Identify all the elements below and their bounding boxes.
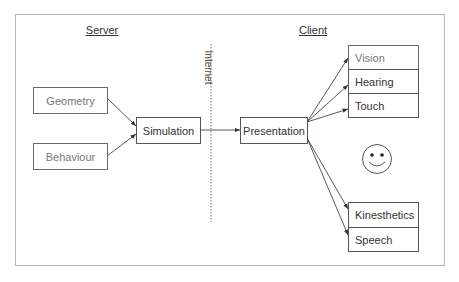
node-speech: Speech [348, 227, 419, 252]
edge-presentation-touch [307, 109, 348, 122]
edge-geometry-simulation [107, 98, 136, 126]
node-vision: Vision [348, 45, 419, 70]
node-presentation: Presentation [240, 117, 308, 144]
node-touch: Touch [348, 93, 419, 118]
architecture-diagram: Server Client Internet Geometry Behaviou… [0, 0, 459, 282]
node-behaviour: Behaviour [33, 143, 108, 170]
node-simulation: Simulation [136, 117, 201, 144]
node-kinesthetics: Kinesthetics [348, 202, 419, 228]
smiley-face-icon [363, 145, 392, 174]
node-hearing: Hearing [348, 69, 419, 94]
edge-behaviour-simulation [107, 134, 136, 156]
node-geometry: Geometry [33, 87, 108, 114]
edge-presentation-kinesthetics [307, 138, 348, 209]
edge-presentation-speech [307, 138, 348, 235]
